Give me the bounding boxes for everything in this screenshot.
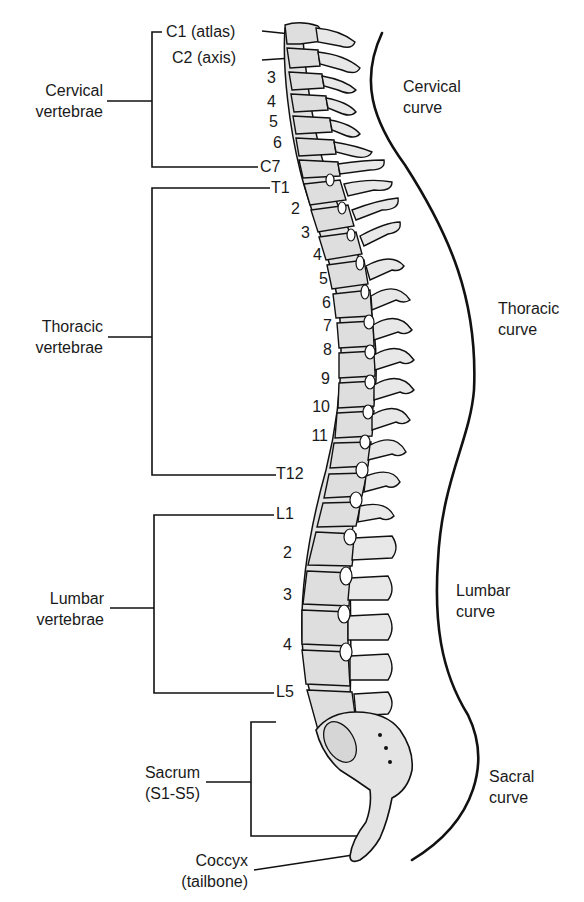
label-line: Thoracic: [498, 298, 559, 319]
vertebra-label-t5: 5: [288, 270, 328, 288]
label-thoracic-curve: Thoracic curve: [498, 298, 559, 340]
vertebra-label-c2: C2 (axis): [172, 48, 236, 68]
label-line: (S1-S5): [100, 783, 200, 804]
label-line: curve: [498, 319, 559, 340]
label-line: Cervical: [403, 76, 461, 97]
label-line: Lumbar: [0, 588, 104, 609]
label-sacrum: Sacrum (S1-S5): [100, 762, 200, 804]
vertebra-label-t4: 4: [282, 246, 322, 264]
vertebra-label-c1: C1 (atlas): [166, 22, 235, 42]
label-line: curve: [403, 97, 461, 118]
vertebra-label-t6: 6: [291, 294, 331, 312]
vertebra-label-l5: L5: [276, 682, 294, 702]
vertebra-label-l3: 3: [252, 586, 292, 604]
vertebra-label-t7: 7: [292, 317, 332, 335]
vertebra-label-t2: 2: [260, 200, 300, 218]
label-sacral-curve: Sacral curve: [489, 766, 534, 808]
vertebra-label-t3: 3: [270, 224, 310, 242]
label-line: Sacrum: [100, 762, 200, 783]
sacrum-coccyx: [316, 712, 412, 861]
vertebra-label-t9: 9: [290, 370, 330, 388]
vertebra-label-t11: 11: [288, 427, 328, 445]
vertebra-label-l1: L1: [276, 504, 294, 524]
vertebra-label-c5: 5: [238, 113, 278, 131]
label-coccyx: Coccyx (tailbone): [150, 850, 248, 892]
label-line: vertebrae: [0, 609, 104, 630]
label-line: curve: [456, 601, 510, 622]
label-line: Cervical: [0, 80, 103, 101]
vertebra-label-c3: 3: [236, 69, 276, 87]
label-thoracic-vertebrae: Thoracic vertebrae: [0, 316, 103, 358]
vertebra-label-t12: T12: [276, 464, 304, 484]
label-cervical-curve: Cervical curve: [403, 76, 461, 118]
vertebra-label-c4: 4: [236, 93, 276, 111]
label-line: Coccyx: [150, 850, 248, 871]
label-line: (tailbone): [150, 871, 248, 892]
label-line: Lumbar: [456, 580, 510, 601]
vertebra-label-l4: 4: [252, 636, 292, 654]
label-line: curve: [489, 787, 534, 808]
vertebra-label-c7: C7: [260, 157, 280, 177]
vertebra-label-t1: T1: [271, 178, 290, 198]
label-lumbar-vertebrae: Lumbar vertebrae: [0, 588, 104, 630]
spine-diagram: Cervical vertebrae Thoracic vertebrae Lu…: [0, 0, 584, 902]
vertebra-label-t10: 10: [290, 398, 330, 416]
label-cervical-vertebrae: Cervical vertebrae: [0, 80, 103, 122]
label-line: vertebrae: [0, 337, 103, 358]
label-line: Sacral: [489, 766, 534, 787]
vertebra-label-t8: 8: [292, 341, 332, 359]
label-line: Thoracic: [0, 316, 103, 337]
label-line: vertebrae: [0, 101, 103, 122]
vertebra-label-l2: 2: [252, 544, 292, 562]
label-lumbar-curve: Lumbar curve: [456, 580, 510, 622]
vertebra-label-c6: 6: [242, 134, 282, 152]
